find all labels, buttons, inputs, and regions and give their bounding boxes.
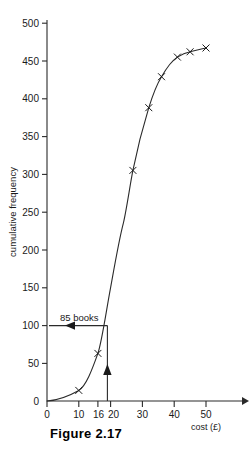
figure-caption: Figure 2.17 xyxy=(50,426,122,441)
x-tick-label: 30 xyxy=(137,409,149,420)
x-axis-arrow-icon xyxy=(242,397,249,405)
y-tick-label: 300 xyxy=(22,169,39,180)
y-tick-label: 150 xyxy=(22,282,39,293)
y-axis-tick-labels: 500 450 400 350 300 250 200 150 100 50 0 xyxy=(22,18,39,407)
x-tick-label: 10 xyxy=(73,409,85,420)
x-tick-label: 20 xyxy=(108,409,120,420)
x-tick-label: 0 xyxy=(44,409,50,420)
y-tick-label: 350 xyxy=(22,131,39,142)
x-tick-label: 40 xyxy=(169,409,181,420)
y-tick-label: 50 xyxy=(28,358,40,369)
y-tick-label: 200 xyxy=(22,245,39,256)
cumulative-frequency-chart: 500 450 400 350 300 250 200 150 100 50 0… xyxy=(0,0,249,454)
y-tick-label: 500 xyxy=(22,18,39,29)
books-annotation-label: 85 books xyxy=(60,312,99,323)
up-arrow-icon xyxy=(103,364,111,375)
y-axis-ticks xyxy=(42,23,47,363)
data-point-marker xyxy=(76,387,82,393)
y-axis-title: cumulative frequency xyxy=(7,167,18,257)
y-tick-label: 250 xyxy=(22,207,39,218)
x-axis-title: cost (£) xyxy=(191,422,221,432)
x-axis-tick-labels: 0 10 16 20 30 40 50 xyxy=(44,409,212,420)
data-point-markers xyxy=(76,45,210,394)
y-tick-label: 0 xyxy=(33,396,39,407)
y-tick-label: 100 xyxy=(22,320,39,331)
x-tick-label: 50 xyxy=(200,409,212,420)
data-point-marker xyxy=(95,350,101,356)
data-point-marker xyxy=(158,74,164,80)
data-point-marker xyxy=(146,105,152,111)
y-tick-label: 400 xyxy=(22,93,39,104)
data-point-marker xyxy=(174,54,180,60)
x-axis-ticks xyxy=(47,401,206,407)
y-tick-label: 450 xyxy=(22,56,39,67)
ogive-curve xyxy=(47,48,206,401)
x-tick-label: 16 xyxy=(93,409,105,420)
